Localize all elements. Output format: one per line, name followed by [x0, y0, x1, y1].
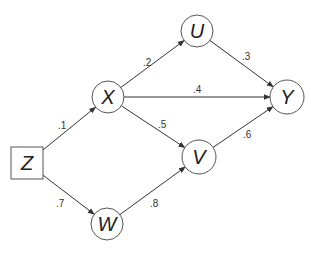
edge-label-z-w: .7 — [56, 198, 65, 209]
edge-z-x-arrow-icon — [43, 107, 96, 150]
edge-x-v-arrow-icon — [121, 106, 184, 148]
edge-label-z-x: .1 — [58, 120, 67, 131]
node-label-y: Y — [280, 86, 295, 108]
path-diagram: .1.7.2.4.5.8.3.6 ZXWUVY — [0, 0, 311, 257]
edge-label-x-u: .2 — [143, 57, 152, 68]
node-label-v: V — [192, 146, 207, 168]
node-y: Y — [270, 80, 304, 114]
node-label-w: W — [98, 213, 119, 235]
node-label-z: Z — [20, 152, 34, 174]
node-x: X — [92, 81, 124, 113]
edge-label-w-v: .8 — [150, 198, 159, 209]
edge-label-u-y: .3 — [242, 51, 251, 62]
node-label-x: X — [100, 86, 115, 108]
node-v: V — [182, 140, 216, 174]
edge-x-u-arrow-icon — [121, 41, 184, 88]
node-label-u: U — [190, 20, 205, 42]
edge-z-w-arrow-icon — [43, 175, 94, 214]
edge-label-x-v: .5 — [158, 119, 167, 130]
edge-u-y-arrow-icon — [210, 40, 273, 86]
edges: .1.7.2.4.5.8.3.6 — [43, 40, 273, 214]
node-w: W — [91, 208, 123, 240]
edge-v-y-arrow-icon — [213, 107, 273, 148]
node-u: U — [181, 15, 213, 47]
edge-label-v-y: .6 — [243, 129, 252, 140]
edge-label-x-y: .4 — [193, 84, 202, 95]
node-z: Z — [11, 147, 43, 179]
